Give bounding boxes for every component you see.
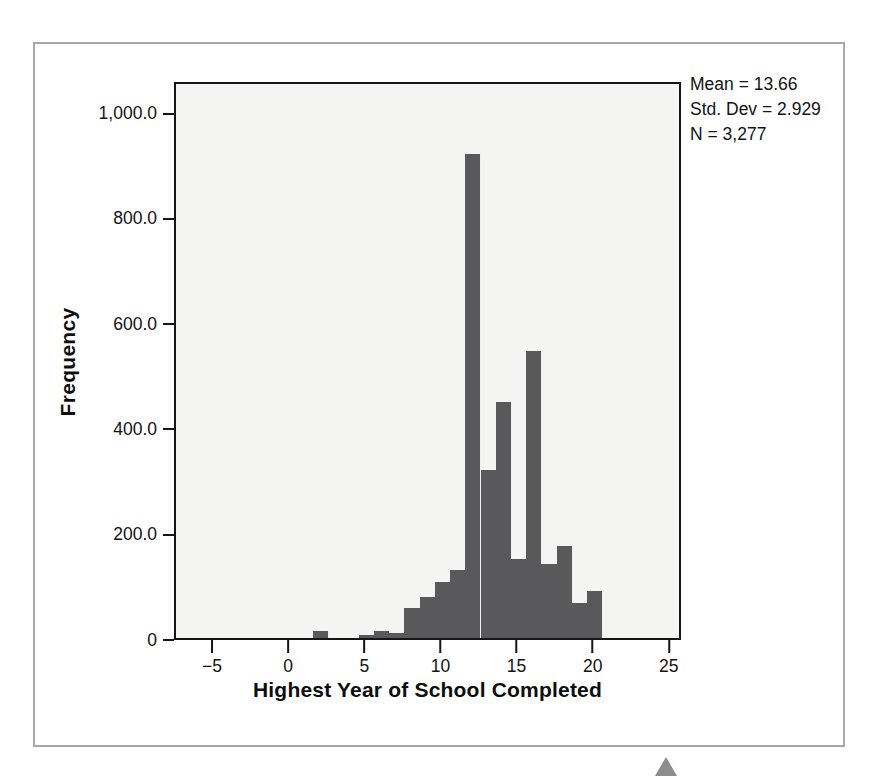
x-axis-tick: 20 xyxy=(583,640,602,677)
x-axis-tick-mark xyxy=(668,640,670,653)
x-axis-tick: 15 xyxy=(507,640,526,677)
statistics-annotation: Mean = 13.66 Std. Dev = 2.929 N = 3,277 xyxy=(690,72,821,147)
y-axis-tick-mark xyxy=(163,534,174,536)
x-axis-tick: 0 xyxy=(283,640,293,677)
histogram-bar xyxy=(374,631,390,638)
y-axis-tick-mark xyxy=(163,323,174,325)
x-axis-tick: 25 xyxy=(659,640,678,677)
y-axis-tick-label: 800.0 xyxy=(113,208,163,229)
histogram-bar xyxy=(541,564,557,638)
y-axis-tick-mark xyxy=(163,113,174,115)
histogram-bar xyxy=(435,582,451,638)
histogram-bar xyxy=(511,559,527,638)
x-axis-tick-label: 5 xyxy=(359,656,369,677)
y-axis-tick-label: 400.0 xyxy=(113,419,163,440)
histogram-bar xyxy=(389,633,405,638)
histogram-bar xyxy=(557,546,573,638)
y-axis-tick-mark xyxy=(163,428,174,430)
histogram-figure-card: Frequency 0200.0400.0600.0800.01,000.0 −… xyxy=(33,42,845,747)
y-axis-tick-label: 600.0 xyxy=(113,314,163,335)
histogram-bar xyxy=(481,470,497,638)
histogram-bar xyxy=(404,608,420,638)
stat-stddev: Std. Dev = 2.929 xyxy=(690,97,821,122)
histogram-bar xyxy=(496,402,512,638)
histogram-bar xyxy=(465,154,481,638)
x-axis-tick-label: −5 xyxy=(202,656,222,677)
y-axis-tick-label: 1,000.0 xyxy=(99,103,163,124)
y-axis-tick-label: 0 xyxy=(147,630,163,651)
x-axis-tick-mark xyxy=(439,640,441,653)
x-axis-tick-mark xyxy=(592,640,594,653)
x-axis-tick: 10 xyxy=(431,640,450,677)
y-axis-tick-mark xyxy=(163,218,174,220)
stat-mean: Mean = 13.66 xyxy=(690,72,821,97)
y-axis: 0200.0400.0600.0800.01,000.0 xyxy=(35,44,174,745)
stat-n: N = 3,277 xyxy=(690,122,821,147)
x-axis-tick-label: 25 xyxy=(659,656,678,677)
histogram-bar xyxy=(587,591,603,638)
y-axis-tick-mark xyxy=(163,639,174,641)
x-axis-tick-label: 15 xyxy=(507,656,526,677)
histogram-bar xyxy=(313,631,329,638)
plot-area xyxy=(174,82,681,640)
y-axis-tick-label: 200.0 xyxy=(113,524,163,545)
x-axis-tick-mark xyxy=(516,640,518,653)
x-axis-tick-mark xyxy=(287,640,289,653)
x-axis-tick: −5 xyxy=(202,640,222,677)
x-axis-tick-label: 20 xyxy=(583,656,602,677)
histogram-bar xyxy=(526,351,542,638)
triangle-up-icon xyxy=(655,757,677,776)
histogram-bar xyxy=(420,597,436,638)
x-axis-tick: 5 xyxy=(359,640,369,677)
x-axis-title: Highest Year of School Completed xyxy=(174,678,681,702)
histogram-bar xyxy=(359,635,375,638)
x-axis-tick-mark xyxy=(363,640,365,653)
x-axis-tick-label: 0 xyxy=(283,656,293,677)
x-axis-tick-mark xyxy=(211,640,213,653)
x-axis: −50510152025 xyxy=(174,640,681,680)
histogram-bar xyxy=(450,570,466,638)
histogram-bars xyxy=(176,84,679,638)
histogram-bar xyxy=(572,603,588,638)
x-axis-tick-label: 10 xyxy=(431,656,450,677)
